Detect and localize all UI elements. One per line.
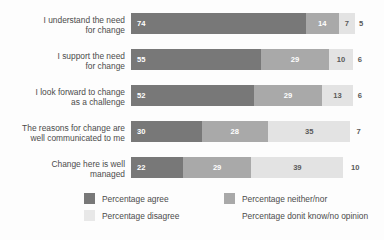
chart-bar-track: 3028357 <box>131 121 367 142</box>
chart-row: I understand the need for change741475 <box>0 11 384 39</box>
stacked-bar-chart: I understand the need for change741475I … <box>0 0 384 240</box>
chart-segment-value: 10 <box>351 163 359 172</box>
chart-bar-track: 5229136 <box>131 85 367 106</box>
chart-bar-track: 5529106 <box>131 49 367 70</box>
legend-item[interactable]: Percentage neither/nor <box>224 193 380 204</box>
chart-bar-segment: 74 <box>131 13 306 34</box>
chart-bar-segment: 55 <box>131 49 261 70</box>
legend-swatch-icon <box>84 193 95 204</box>
chart-row-label: The reasons for change are well communic… <box>8 123 125 144</box>
chart-row: The reasons for change are well communic… <box>0 119 384 147</box>
chart-row-label: I understand the need for change <box>8 15 125 36</box>
legend-label: Percentage disagree <box>102 211 179 221</box>
chart-segment-value: 6 <box>358 91 362 100</box>
chart-bar-segment: 10 <box>343 157 367 178</box>
chart-segment-value: 55 <box>137 55 145 64</box>
chart-segment-value: 30 <box>137 127 145 136</box>
chart-row-label: I look forward to change as a challenge <box>8 87 125 108</box>
chart-bar-segment: 6 <box>353 85 367 106</box>
chart-bar-track: 741475 <box>131 13 367 34</box>
legend-swatch-icon <box>84 210 95 221</box>
chart-bar-segment: 22 <box>131 157 183 178</box>
chart-bar-segment: 29 <box>254 85 322 106</box>
chart-legend: Percentage agreePercentage neither/norPe… <box>84 190 380 224</box>
legend-label: Percentage agree <box>102 194 169 204</box>
chart-segment-value: 52 <box>137 91 145 100</box>
legend-item[interactable]: Percentage disagree <box>84 210 224 221</box>
chart-bar-segment: 52 <box>131 85 254 106</box>
chart-bar-segment: 6 <box>353 49 367 70</box>
chart-row: I look forward to change as a challenge5… <box>0 83 384 111</box>
chart-bar-segment: 39 <box>251 157 343 178</box>
legend-label: Percentage donit know/no opinion <box>242 211 368 221</box>
legend-row: Percentage agreePercentage neither/nor <box>84 190 380 207</box>
legend-swatch-icon <box>224 210 235 221</box>
chart-row-label: Change here is well managed <box>8 159 125 180</box>
legend-label: Percentage neither/nor <box>242 194 327 204</box>
chart-bar-segment: 10 <box>329 49 353 70</box>
chart-segment-value: 35 <box>305 127 313 136</box>
chart-bar-segment: 28 <box>202 121 268 142</box>
legend-row: Percentage disagreePercentage donit know… <box>84 207 380 224</box>
chart-row: I support the need for change5529106 <box>0 47 384 75</box>
chart-bar-segment: 30 <box>131 121 202 142</box>
chart-segment-value: 7 <box>345 19 349 28</box>
chart-segment-value: 7 <box>357 127 361 136</box>
chart-bar-segment: 5 <box>355 13 367 34</box>
legend-item[interactable]: Percentage agree <box>84 193 224 204</box>
chart-segment-value: 29 <box>291 55 299 64</box>
legend-item[interactable]: Percentage donit know/no opinion <box>224 210 380 221</box>
chart-bar-segment: 13 <box>322 85 353 106</box>
legend-swatch-icon <box>224 193 235 204</box>
chart-segment-value: 28 <box>231 127 239 136</box>
chart-bar-segment: 35 <box>268 121 351 142</box>
chart-segment-value: 29 <box>284 91 292 100</box>
chart-plot-area: I understand the need for change741475I … <box>0 11 384 191</box>
chart-bar-track: 22293910 <box>131 157 367 178</box>
chart-row-label: I support the need for change <box>8 51 125 72</box>
chart-segment-value: 13 <box>333 91 341 100</box>
chart-segment-value: 74 <box>137 19 145 28</box>
chart-segment-value: 39 <box>293 163 301 172</box>
chart-bar-segment: 29 <box>183 157 251 178</box>
chart-row: Change here is well managed22293910 <box>0 155 384 183</box>
chart-bar-segment: 7 <box>339 13 356 34</box>
chart-segment-value: 6 <box>358 55 362 64</box>
chart-segment-value: 29 <box>213 163 221 172</box>
chart-segment-value: 22 <box>137 163 145 172</box>
chart-segment-value: 14 <box>318 19 326 28</box>
chart-bar-segment: 7 <box>350 121 367 142</box>
chart-bar-segment: 14 <box>306 13 339 34</box>
chart-segment-value: 10 <box>337 55 345 64</box>
chart-bar-segment: 29 <box>261 49 329 70</box>
chart-segment-value: 5 <box>359 19 363 28</box>
